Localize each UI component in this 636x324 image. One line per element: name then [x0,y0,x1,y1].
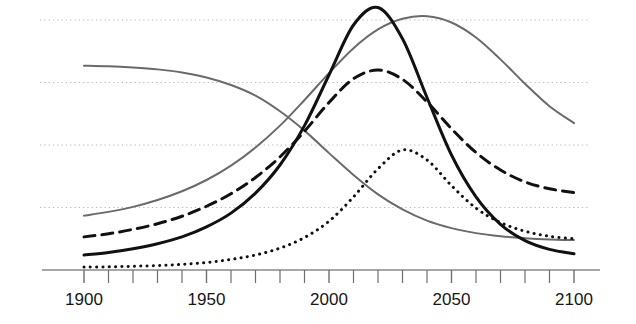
x-tick-label-1950: 1950 [188,290,226,309]
x-tick-label-2100: 2100 [555,290,593,309]
x-axis-group [42,270,600,283]
gray-declining-curve [84,66,574,240]
x-tick-labels-group: 19001950200020502100 [65,290,593,309]
x-tick-label-2000: 2000 [310,290,348,309]
gray-rising-peak-curve [84,16,574,216]
chart-container: 19001950200020502100 [0,0,636,324]
series-group [84,7,574,267]
x-tick-label-1900: 1900 [65,290,103,309]
x-tick-label-2050: 2050 [433,290,471,309]
gridlines-group [40,20,590,208]
black-solid-curve [84,7,574,255]
black-dotted-curve [84,150,574,267]
line-chart: 19001950200020502100 [0,0,636,324]
